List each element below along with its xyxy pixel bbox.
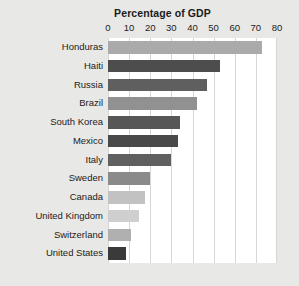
- bar-switzerland: [108, 229, 131, 242]
- category-label-switzerland: Switzerland: [54, 226, 103, 245]
- bar-russia: [108, 79, 207, 92]
- bar-chart: Percentage of GDP 01020304050607080 Hond…: [0, 0, 299, 286]
- bar-row: [108, 226, 277, 245]
- category-label-united-kingdom: United Kingdom: [35, 207, 103, 226]
- bar-italy: [108, 154, 171, 167]
- category-label-honduras: Honduras: [62, 38, 103, 57]
- bar-mexico: [108, 135, 178, 148]
- bar-haiti: [108, 60, 220, 73]
- x-tick-label-0: 0: [105, 22, 110, 33]
- x-tick-label-20: 20: [145, 22, 156, 33]
- x-tick-label-70: 70: [251, 22, 262, 33]
- bar-united-states: [108, 247, 126, 260]
- chart-title: Percentage of GDP: [0, 7, 299, 19]
- x-tick-label-80: 80: [272, 22, 283, 33]
- x-tick-label-30: 30: [166, 22, 177, 33]
- bar-row: [108, 76, 277, 95]
- bar-row: [108, 38, 277, 57]
- bar-row: [108, 151, 277, 170]
- x-axis-tick-labels: 01020304050607080: [108, 22, 277, 36]
- category-label-south-korea: South Korea: [50, 113, 103, 132]
- bar-row: [108, 188, 277, 207]
- category-label-brazil: Brazil: [79, 94, 103, 113]
- plot-area: [108, 38, 277, 263]
- category-label-canada: Canada: [70, 188, 103, 207]
- bar-honduras: [108, 41, 262, 54]
- category-label-russia: Russia: [74, 76, 103, 95]
- x-tick-label-10: 10: [124, 22, 135, 33]
- bar-row: [108, 244, 277, 263]
- bar-canada: [108, 191, 145, 204]
- bar-row: [108, 94, 277, 113]
- bar-sweden: [108, 172, 150, 185]
- category-label-mexico: Mexico: [73, 132, 103, 151]
- bar-brazil: [108, 97, 197, 110]
- category-label-sweden: Sweden: [69, 169, 103, 188]
- bars-layer: [108, 38, 277, 263]
- bar-row: [108, 169, 277, 188]
- bar-row: [108, 207, 277, 226]
- bar-south-korea: [108, 116, 180, 129]
- x-tick-label-40: 40: [187, 22, 198, 33]
- category-label-haiti: Haiti: [84, 57, 103, 76]
- category-label-united-states: United States: [46, 244, 103, 263]
- y-axis-category-labels: HondurasHaitiRussiaBrazilSouth KoreaMexi…: [0, 38, 103, 263]
- category-label-italy: Italy: [86, 151, 103, 170]
- bar-united-kingdom: [108, 210, 139, 223]
- bar-row: [108, 113, 277, 132]
- bar-row: [108, 132, 277, 151]
- x-tick-label-50: 50: [208, 22, 219, 33]
- x-tick-label-60: 60: [229, 22, 240, 33]
- bar-row: [108, 57, 277, 76]
